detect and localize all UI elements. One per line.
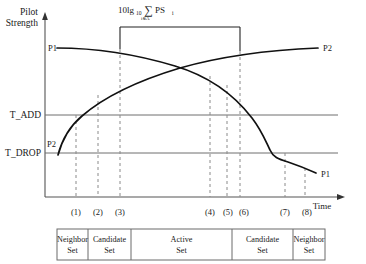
table-cell-candidate-left: Candidate Set xyxy=(93,235,127,255)
formula-term-subscript: i xyxy=(172,10,174,16)
axes-group xyxy=(42,12,345,200)
curve-label-p1-end: P1 xyxy=(321,169,330,179)
pilot-strength-chart: Pilot Strength Time T_ADD T_DROP 10lg 10… xyxy=(0,0,366,264)
table-cell-neighbor-left: Neighbor Set xyxy=(57,235,88,255)
y-axis-label-line2: Strength xyxy=(6,18,38,28)
diagram-canvas: Pilot Strength Time T_ADD T_DROP 10lg 10… xyxy=(0,0,366,264)
curve-p2 xyxy=(58,48,318,155)
curve-label-p2-end: P2 xyxy=(323,43,332,53)
cell-label-line1: Candidate xyxy=(246,235,280,244)
marker-label-2: (2) xyxy=(93,207,103,217)
marker-label-4: (4) xyxy=(205,207,215,217)
curve-label-p1-start: P1 xyxy=(48,43,57,53)
set-membership-table: Neighbor Set Candidate Set Active Set Ca… xyxy=(57,229,325,260)
cell-label-line2: Set xyxy=(257,246,268,255)
cell-label-line1: Candidate xyxy=(93,235,127,244)
marker-label-8: (8) xyxy=(302,207,312,217)
table-outline xyxy=(57,229,325,260)
cell-label-line2: Set xyxy=(176,246,187,255)
marker-label-5: (5) xyxy=(223,207,233,217)
curve-label-p2-start: P2 xyxy=(47,139,56,149)
cell-label-line1: Neighbor xyxy=(294,235,325,244)
marker-label-7: (7) xyxy=(280,207,290,217)
cell-label-line2: Set xyxy=(67,246,78,255)
cell-label-line1: Neighbor xyxy=(57,235,88,244)
formula-term: PS xyxy=(155,5,165,15)
active-set-box xyxy=(120,27,240,51)
cell-label-line1: Active xyxy=(171,235,193,244)
cell-label-line2: Set xyxy=(104,246,115,255)
formula-prefix: 10lg xyxy=(118,5,135,15)
marker-label-1: (1) xyxy=(71,207,81,217)
x-axis-arrow-icon xyxy=(337,194,345,200)
x-axis-label: Time xyxy=(313,201,332,211)
marker-label-6: (6) xyxy=(239,207,249,217)
t-drop-label: T_DROP xyxy=(5,148,41,158)
event-marker-labels: (1) (2) (3) (4) (5) (6) (7) (8) xyxy=(71,207,312,217)
t-add-label: T_ADD xyxy=(10,110,41,120)
table-cell-neighbor-right: Neighbor Set xyxy=(294,235,325,255)
threshold-lines-group xyxy=(45,115,338,153)
formula-sigma-subscript: i∈A xyxy=(141,16,150,21)
cell-label-line2: Set xyxy=(304,246,315,255)
table-cell-candidate-right: Candidate Set xyxy=(246,235,280,255)
formula-sigma-icon: ∑ xyxy=(144,3,153,17)
y-axis-label-line1: Pilot xyxy=(20,7,38,17)
summation-formula: 10lg 10 ∑ i∈A PS i xyxy=(118,3,174,21)
marker-label-3: (3) xyxy=(115,207,125,217)
y-axis-arrow-icon xyxy=(42,12,48,20)
table-cell-active: Active Set xyxy=(171,235,193,255)
